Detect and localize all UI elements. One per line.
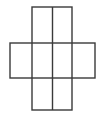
- cross-figure-diagram: [0, 0, 104, 118]
- cross-figure-svg: [0, 0, 104, 118]
